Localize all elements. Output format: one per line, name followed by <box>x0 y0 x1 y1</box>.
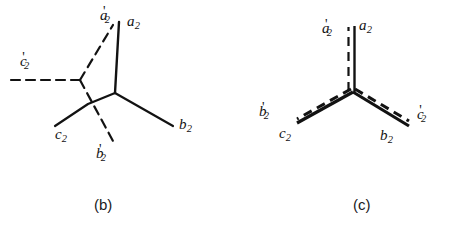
figure-root: a'2 a2 c'2 c2 b'2 b2 (b) <box>0 0 475 232</box>
label-a2-prime-c: a'2 <box>322 18 332 39</box>
label-c2-c: c2 <box>279 126 291 144</box>
panel-b-drawing <box>0 0 240 232</box>
bond-b2-prime-dashed <box>80 80 113 141</box>
label-b2-prime-b: b'2 <box>96 143 106 164</box>
caption-panel-c: (c) <box>353 196 371 213</box>
bond-a2-prime-dashed <box>80 25 113 80</box>
label-c2-prime-b: c'2 <box>20 51 29 72</box>
caption-panel-b: (b) <box>94 196 112 213</box>
label-a2-c: a2 <box>359 18 372 36</box>
bond-b2-prime-dashed <box>297 89 351 119</box>
diagram-panel-b: a'2 a2 c'2 c2 b'2 b2 (b) <box>0 0 240 232</box>
label-b2-c: b2 <box>380 128 393 146</box>
bond-a2-solid <box>115 22 119 93</box>
label-c2-prime-c: c'2 <box>417 104 426 125</box>
bond-c2-solid <box>55 93 115 126</box>
label-b2-prime-c: b'2 <box>259 101 269 122</box>
label-c2-b: c2 <box>55 127 67 145</box>
bond-c2-solid <box>297 92 353 123</box>
label-a2-b: a2 <box>127 14 140 32</box>
diagram-panel-c: a'2 a2 b'2 c2 c'2 b2 (c) <box>240 0 475 232</box>
label-b2-b: b2 <box>179 117 192 135</box>
bond-c2-prime-dashed <box>355 89 409 121</box>
label-a2-prime-b: a'2 <box>100 5 110 26</box>
bond-b2-solid <box>353 92 409 126</box>
bond-b2-solid <box>115 93 173 126</box>
